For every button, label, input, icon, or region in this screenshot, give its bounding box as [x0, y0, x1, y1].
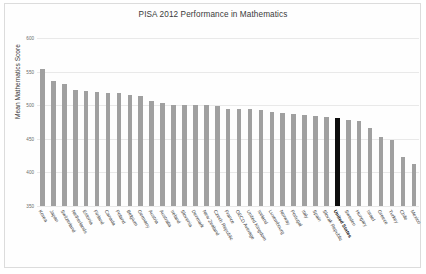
x-label-slot: Greece: [376, 207, 387, 271]
plot-area: 350400450500550600: [37, 38, 419, 206]
bar[interactable]: [313, 116, 318, 206]
bar-slot: [332, 38, 343, 206]
bar[interactable]: [390, 140, 395, 206]
bar[interactable]: [171, 105, 176, 206]
bar-series: [37, 38, 419, 206]
bar-slot: [310, 38, 321, 206]
x-axis-tick-label: Israel: [366, 209, 376, 222]
bar[interactable]: [149, 101, 154, 206]
bar-slot: [146, 38, 157, 206]
x-label-slot: Spain: [310, 207, 321, 271]
bar-slot: [92, 38, 103, 206]
bar[interactable]: [346, 120, 351, 206]
x-label-slot: Italy: [299, 207, 310, 271]
x-label-slot: Estonia: [81, 207, 92, 271]
bar[interactable]: [259, 110, 264, 206]
bar-slot: [408, 38, 419, 206]
bar[interactable]: [237, 109, 242, 206]
bar[interactable]: [106, 93, 111, 206]
bar[interactable]: [215, 106, 220, 206]
bar[interactable]: [379, 137, 384, 206]
x-label-slot: Turkey: [387, 207, 398, 271]
bar[interactable]: [73, 90, 78, 206]
bar[interactable]: [95, 92, 100, 206]
bar[interactable]: [117, 93, 122, 206]
y-axis-tick-label: 500: [26, 103, 34, 108]
bar[interactable]: [302, 115, 307, 206]
bar-slot: [124, 38, 135, 206]
bar[interactable]: [324, 117, 329, 206]
x-label-slot: Slovenia: [179, 207, 190, 271]
x-label-slot: United Kingdom: [245, 207, 256, 271]
bar-slot: [321, 38, 332, 206]
x-label-slot: Japan: [48, 207, 59, 271]
bar-slot: [103, 38, 114, 206]
bar[interactable]: [128, 95, 133, 206]
bar-slot: [81, 38, 92, 206]
x-label-slot: France: [223, 207, 234, 271]
x-axis-labels: KoreaJapanSwitzerlandNetherlandsEstoniaF…: [37, 207, 419, 271]
bar-slot: [190, 38, 201, 206]
x-label-slot: Slovak Republic: [321, 207, 332, 271]
chart-title: PISA 2012 Performance in Mathematics: [0, 10, 426, 19]
bar-slot: [387, 38, 398, 206]
x-label-slot: Norway: [277, 207, 288, 271]
bar[interactable]: [357, 121, 362, 206]
bar-slot: [354, 38, 365, 206]
bar-slot: [397, 38, 408, 206]
x-label-slot: Switzerland: [59, 207, 70, 271]
x-label-slot: Israel: [365, 207, 376, 271]
x-label-slot: Netherlands: [70, 207, 81, 271]
x-label-slot: Iceland: [255, 207, 266, 271]
bar[interactable]: [138, 96, 143, 206]
bar[interactable]: [84, 91, 89, 206]
x-label-slot: Sweden: [343, 207, 354, 271]
bar-slot: [365, 38, 376, 206]
bar-slot: [59, 38, 70, 206]
x-axis-tick-label: Chile: [399, 209, 409, 221]
chart-figure: PISA 2012 Performance in Mathematics Mea…: [0, 0, 426, 274]
x-label-slot: New Zealand: [201, 207, 212, 271]
x-label-slot: Portugal: [288, 207, 299, 271]
x-label-slot: Mexico: [408, 207, 419, 271]
bar-slot: [157, 38, 168, 206]
x-label-slot: Germany: [135, 207, 146, 271]
bar-slot: [288, 38, 299, 206]
bar[interactable]: [193, 105, 198, 206]
y-axis-tick-label: 550: [26, 69, 34, 74]
bar[interactable]: [51, 81, 56, 206]
bar[interactable]: [270, 112, 275, 206]
bar-slot: [277, 38, 288, 206]
y-axis-tick-label: 350: [26, 204, 34, 209]
x-label-slot: Luxembourg: [266, 207, 277, 271]
bar[interactable]: [40, 69, 45, 206]
bar[interactable]: [401, 157, 406, 206]
bar[interactable]: [280, 113, 285, 206]
y-axis-tick-label: 600: [26, 36, 34, 41]
bar-slot: [245, 38, 256, 206]
bar[interactable]: [412, 164, 417, 206]
x-label-slot: Austria: [146, 207, 157, 271]
bar[interactable]: [335, 118, 340, 206]
bar-slot: [48, 38, 59, 206]
x-label-slot: Australia: [157, 207, 168, 271]
bar[interactable]: [291, 114, 296, 206]
x-label-slot: Belgium: [124, 207, 135, 271]
y-axis-tick-label: 400: [26, 170, 34, 175]
bar[interactable]: [182, 105, 187, 206]
bar[interactable]: [226, 109, 231, 206]
x-label-slot: United States: [332, 207, 343, 271]
bar-slot: [234, 38, 245, 206]
bar-slot: [299, 38, 310, 206]
bar[interactable]: [62, 84, 67, 206]
bar-slot: [201, 38, 212, 206]
bar-slot: [376, 38, 387, 206]
bar[interactable]: [160, 103, 165, 206]
bar[interactable]: [368, 128, 373, 206]
bar[interactable]: [248, 109, 253, 206]
bar-slot: [168, 38, 179, 206]
x-label-slot: Chile: [397, 207, 408, 271]
x-label-slot: Hungary: [354, 207, 365, 271]
bar[interactable]: [204, 105, 209, 206]
x-label-slot: OECD Average: [234, 207, 245, 271]
